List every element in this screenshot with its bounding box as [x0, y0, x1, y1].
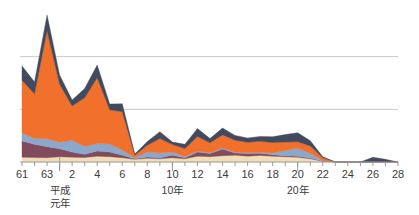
- era-label-line: 元年: [50, 197, 70, 210]
- era-label: 20年: [287, 184, 309, 196]
- x-tick-label: 4: [94, 169, 100, 180]
- x-tick-label: 18: [267, 169, 279, 180]
- x-tick-label: 20: [292, 169, 304, 180]
- x-tick-label: 6: [119, 169, 125, 180]
- x-tick-label: 16: [241, 169, 253, 180]
- era-label-line: 10年: [162, 184, 184, 196]
- stacked-area-chart: 6163246810121416182022242628 平成元年10年20年: [0, 0, 419, 215]
- x-tick-label: 61: [16, 169, 28, 180]
- x-tick-label: 26: [367, 169, 379, 180]
- x-tick-label: 22: [317, 169, 329, 180]
- x-tick-label: 8: [144, 169, 150, 180]
- area-series-group: [22, 15, 398, 162]
- x-tick-label: 10: [166, 169, 178, 180]
- x-tick-label: 28: [392, 169, 404, 180]
- chart-plot-area: [0, 0, 419, 215]
- x-tick-label: 63: [41, 169, 53, 180]
- era-label-line: 平成: [50, 184, 70, 197]
- era-label: 平成元年: [50, 184, 70, 210]
- x-tick-label: 12: [191, 169, 203, 180]
- era-label: 10年: [162, 184, 184, 196]
- era-label-line: 20年: [287, 184, 309, 196]
- x-tick-label: 24: [342, 169, 354, 180]
- x-tick-label: 14: [216, 169, 228, 180]
- x-tick-label: 2: [69, 169, 75, 180]
